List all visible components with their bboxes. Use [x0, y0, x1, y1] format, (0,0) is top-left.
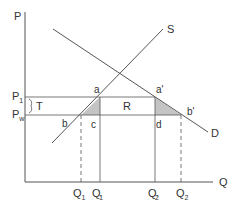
y-axis-label: P — [14, 10, 21, 22]
demand-curve — [53, 29, 208, 132]
point-b-prime-label: b' — [187, 106, 195, 117]
tariff-diagram: P Q S D P1 Pw T a a' b b' c d R Q1 Q′1 Q… — [0, 0, 236, 209]
x-axis-label: Q — [219, 176, 228, 188]
pw-label: Pw — [12, 108, 25, 122]
point-b-label: b — [62, 118, 68, 129]
demand-label: D — [211, 127, 219, 139]
supply-curve — [52, 29, 163, 143]
q1-prime-label: Q′1 — [92, 187, 103, 201]
supply-label: S — [167, 23, 174, 35]
q1-label: Q1 — [73, 187, 86, 201]
revenue-label: R — [123, 100, 131, 112]
point-d-label: d — [156, 119, 162, 130]
p1-label: P1 — [12, 90, 23, 104]
deadweight-triangle-production — [81, 97, 100, 115]
tariff-label: T — [36, 100, 43, 112]
q2-label: Q2 — [176, 187, 189, 201]
tariff-brace — [29, 99, 32, 113]
q2-prime-label: Q′2 — [148, 187, 159, 201]
point-a-label: a — [94, 84, 100, 95]
point-a-prime-label: a' — [156, 84, 164, 95]
point-c-label: c — [91, 119, 96, 130]
